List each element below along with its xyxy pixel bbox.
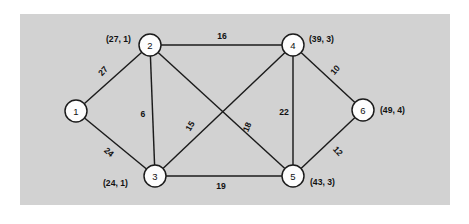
node-tuple-label: (39, 3) xyxy=(309,34,334,44)
edge-weight-label: 27 xyxy=(96,64,110,78)
edge-weight-label: 12 xyxy=(331,144,345,158)
node-id-label: 3 xyxy=(152,171,157,182)
graph-edge xyxy=(84,118,146,169)
nodes-layer xyxy=(65,34,374,187)
edge-weight-label: 16 xyxy=(217,31,227,41)
graph-canvas: 2724166181519221012 12(27, 1)3(24, 1)4(3… xyxy=(0,0,469,224)
node-tuple-label: (49, 4) xyxy=(380,105,405,115)
graph-edge xyxy=(84,52,142,103)
edge-weight-label: 19 xyxy=(216,181,226,191)
node-tuple-label: (43, 3) xyxy=(310,177,335,187)
node-id-label: 1 xyxy=(73,106,78,117)
graph-edge xyxy=(150,56,154,165)
node-tuple-label: (27, 1) xyxy=(106,34,131,44)
edge-labels-layer: 2724166181519221012 xyxy=(96,31,345,191)
edge-weight-label: 22 xyxy=(279,107,289,117)
graph-figure: 2724166181519221012 12(27, 1)3(24, 1)4(3… xyxy=(0,0,469,224)
edge-weight-label: 6 xyxy=(141,109,146,119)
edge-weight-label: 18 xyxy=(241,120,254,133)
node-id-label: 6 xyxy=(360,105,365,116)
graph-edge xyxy=(301,52,355,102)
node-tuple-label: (24, 1) xyxy=(103,178,128,188)
node-id-label: 5 xyxy=(290,171,295,182)
node-id-label: 2 xyxy=(147,40,152,51)
graph-edge xyxy=(301,118,355,169)
edge-weight-label: 15 xyxy=(183,119,197,133)
edge-weight-label: 24 xyxy=(102,145,116,159)
node-id-label: 4 xyxy=(290,40,295,51)
edges-layer xyxy=(84,45,355,176)
edge-weight-label: 10 xyxy=(328,63,342,77)
